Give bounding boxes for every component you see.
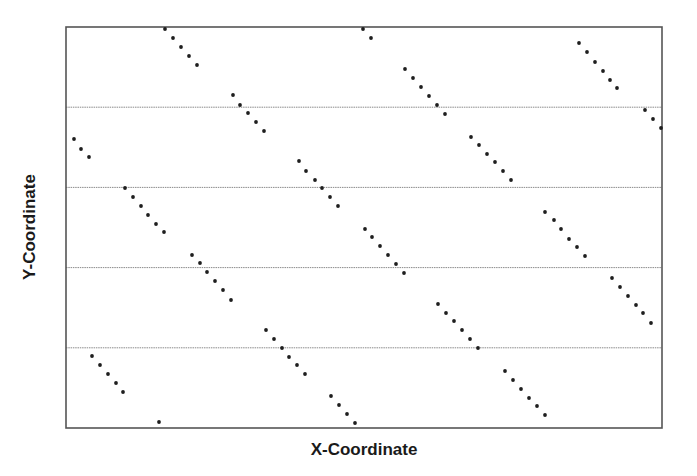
data-point (427, 94, 431, 98)
data-point (221, 288, 225, 292)
data-point (543, 210, 547, 214)
data-point (402, 271, 406, 275)
data-point (198, 261, 202, 265)
data-point (651, 117, 655, 121)
data-point (477, 143, 481, 147)
data-point (121, 390, 125, 394)
data-point (106, 372, 110, 376)
data-point (313, 178, 317, 182)
data-point (369, 36, 373, 40)
data-point (98, 363, 102, 367)
data-point (527, 396, 531, 400)
data-point (643, 108, 647, 112)
scatter-chart (0, 0, 697, 476)
data-point (503, 369, 507, 373)
data-point (72, 137, 76, 141)
data-point (190, 253, 194, 257)
data-point (386, 253, 390, 257)
data-point (378, 244, 382, 248)
data-point (583, 254, 587, 258)
data-point (139, 204, 143, 208)
data-point (608, 78, 612, 82)
data-point (262, 129, 266, 133)
data-point (501, 169, 505, 173)
data-point (460, 328, 464, 332)
data-point (231, 93, 235, 97)
data-point (615, 86, 619, 90)
data-point (254, 120, 258, 124)
data-point (213, 279, 217, 283)
data-point (336, 204, 340, 208)
data-point (493, 160, 497, 164)
data-point (659, 126, 663, 130)
data-point (297, 159, 301, 163)
data-point (610, 276, 614, 280)
data-point (577, 41, 581, 45)
data-point (295, 363, 299, 367)
data-point (552, 218, 556, 222)
data-point (559, 227, 563, 231)
data-point (443, 112, 447, 116)
data-point (162, 230, 166, 234)
data-point (585, 50, 589, 54)
data-point (411, 76, 415, 80)
data-point (154, 222, 158, 226)
data-point (246, 111, 250, 115)
data-point (304, 169, 308, 173)
data-point (229, 298, 233, 302)
data-point (476, 346, 480, 350)
data-point (543, 413, 547, 417)
data-point (535, 404, 539, 408)
data-point (626, 294, 630, 298)
data-point (131, 195, 135, 199)
data-point (328, 195, 332, 199)
data-point (205, 270, 209, 274)
data-point (509, 178, 513, 182)
data-point (195, 63, 199, 67)
data-point (329, 394, 333, 398)
data-point (264, 328, 268, 332)
data-point (280, 346, 284, 350)
data-point (511, 378, 515, 382)
data-point (452, 319, 456, 323)
data-point (519, 387, 523, 391)
data-point (123, 186, 127, 190)
data-points (72, 27, 663, 425)
data-point (641, 311, 645, 315)
data-point (87, 155, 91, 159)
data-point (353, 421, 357, 425)
data-point (593, 60, 597, 64)
y-axis-label: Y-Coordinate (20, 174, 40, 280)
data-point (187, 54, 191, 58)
data-point (618, 285, 622, 289)
data-point (370, 235, 374, 239)
data-point (436, 302, 440, 306)
data-point (419, 85, 423, 89)
data-point (485, 152, 489, 156)
data-point (320, 186, 324, 190)
data-point (469, 135, 473, 139)
data-point (303, 372, 307, 376)
data-point (444, 311, 448, 315)
data-point (567, 237, 571, 241)
data-point (287, 355, 291, 359)
data-point (171, 36, 175, 40)
data-point (163, 27, 167, 31)
data-point (601, 69, 605, 73)
data-point (363, 227, 367, 231)
x-axis-label: X-Coordinate (311, 440, 418, 460)
data-point (403, 67, 407, 71)
data-point (634, 303, 638, 307)
data-point (345, 412, 349, 416)
data-point (361, 27, 365, 31)
data-point (90, 354, 94, 358)
data-point (179, 45, 183, 49)
data-point (468, 337, 472, 341)
data-point (649, 321, 653, 325)
data-point (394, 262, 398, 266)
data-point (79, 147, 83, 151)
data-point (272, 337, 276, 341)
data-point (575, 245, 579, 249)
data-point (435, 103, 439, 107)
data-point (157, 420, 161, 424)
